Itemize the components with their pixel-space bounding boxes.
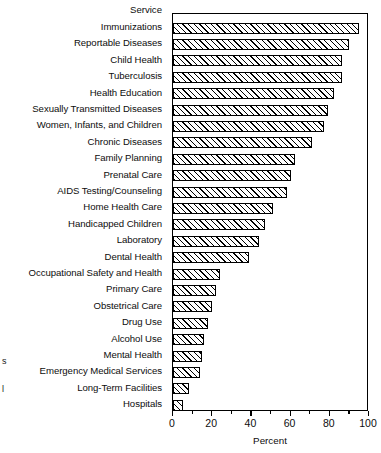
category-label: Mental Health xyxy=(103,349,162,360)
bar xyxy=(173,285,216,296)
bar xyxy=(173,301,212,312)
bar-chart: sl Service ImmunizationsReportable Disea… xyxy=(0,0,381,453)
category-label: Health Education xyxy=(90,87,162,98)
x-tick-minor xyxy=(192,411,193,414)
bar xyxy=(173,203,273,214)
x-tick-minor xyxy=(270,411,271,414)
bar xyxy=(173,105,328,116)
category-label: Primary Care xyxy=(106,283,162,294)
bar xyxy=(173,154,295,165)
x-tick-major xyxy=(211,411,212,416)
category-label: Family Planning xyxy=(94,152,162,163)
bar xyxy=(173,367,200,378)
x-tick-major xyxy=(172,411,173,416)
x-tick-label: 100 xyxy=(351,417,381,429)
category-label: Women, Infants, and Children xyxy=(37,119,162,130)
y-axis-header: Service xyxy=(130,4,162,15)
category-label: Laboratory xyxy=(117,234,162,245)
bar xyxy=(173,137,312,148)
bar xyxy=(173,39,349,50)
x-tick-minor xyxy=(309,411,310,414)
bar xyxy=(173,400,183,411)
category-label: Handicapped Children xyxy=(68,218,162,229)
bar xyxy=(173,236,259,247)
category-label: Hospitals xyxy=(123,398,162,409)
bar xyxy=(173,23,359,34)
x-tick-label: 60 xyxy=(273,417,307,429)
x-tick-minor xyxy=(348,411,349,414)
bar xyxy=(173,88,334,99)
bar xyxy=(173,121,324,132)
x-tick-major xyxy=(368,411,369,416)
category-label: Emergency Medical Services xyxy=(40,365,162,376)
bar xyxy=(173,252,249,263)
bar xyxy=(173,72,342,83)
category-label: Child Health xyxy=(110,54,162,65)
category-label: Alcohol Use xyxy=(111,333,162,344)
x-tick-label: 20 xyxy=(194,417,228,429)
x-tick-major xyxy=(250,411,251,416)
category-label: Occupational Safety and Health xyxy=(29,267,162,278)
category-label: AIDS Testing/Counseling xyxy=(57,185,162,196)
bar xyxy=(173,170,291,181)
x-tick-label: 40 xyxy=(233,417,267,429)
bar xyxy=(173,334,204,345)
category-label-column: Service ImmunizationsReportable Diseases… xyxy=(0,0,166,453)
category-label: Drug Use xyxy=(122,316,162,327)
bar xyxy=(173,187,287,198)
x-axis-title: Percent xyxy=(172,435,368,446)
category-label: Home Health Care xyxy=(83,201,162,212)
bar xyxy=(173,318,208,329)
bar xyxy=(173,269,220,280)
category-label: Immunizations xyxy=(101,21,162,32)
bar xyxy=(173,383,189,394)
x-tick-label: 0 xyxy=(155,417,189,429)
category-label: Prenatal Care xyxy=(103,169,162,180)
plot-area xyxy=(172,13,368,411)
bar xyxy=(173,55,342,66)
category-label: Sexually Transmitted Diseases xyxy=(32,103,162,114)
category-label: Obstetrical Care xyxy=(93,300,162,311)
category-label: Dental Health xyxy=(105,251,162,262)
x-tick-label: 80 xyxy=(312,417,346,429)
x-axis: Percent 020406080100 xyxy=(172,411,368,453)
x-tick-major xyxy=(329,411,330,416)
category-label: Reportable Diseases xyxy=(74,37,162,48)
x-tick-minor xyxy=(231,411,232,414)
category-label: Long-Term Facilities xyxy=(77,382,162,393)
bar xyxy=(173,219,265,230)
category-label: Chronic Diseases xyxy=(88,136,162,147)
category-label: Tuberculosis xyxy=(109,70,162,81)
bar xyxy=(173,351,202,362)
x-tick-major xyxy=(290,411,291,416)
